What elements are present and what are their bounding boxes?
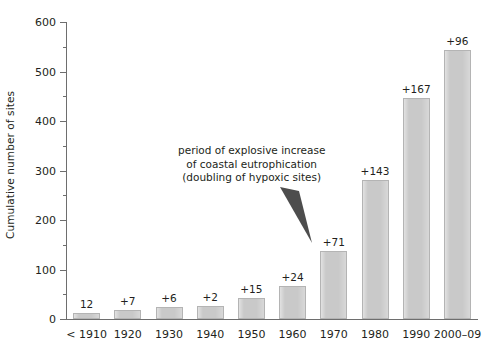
bar-1940 xyxy=(197,306,224,319)
y-axis-tick-major xyxy=(60,22,66,23)
x-axis-tick-label: 1990 xyxy=(402,328,430,341)
y-axis-tick-label: 200 xyxy=(10,214,56,227)
y-axis-tick-major xyxy=(60,121,66,122)
y-axis-tick-label: 500 xyxy=(10,65,56,78)
bar-1990 xyxy=(403,98,430,319)
bar-value-label: +71 xyxy=(323,236,345,248)
bar-1930 xyxy=(156,307,183,319)
bar-1950 xyxy=(238,298,265,319)
x-axis-tick-label: 1920 xyxy=(114,328,142,341)
x-axis-tick-label: 1950 xyxy=(237,328,265,341)
y-axis-tick-minor xyxy=(63,294,66,295)
y-axis-tick-minor xyxy=(63,47,66,48)
x-axis-tick-label: 1940 xyxy=(196,328,224,341)
x-axis-tick-label: 2000–09 xyxy=(434,328,482,341)
y-axis-tick-major xyxy=(60,72,66,73)
bar-1910 xyxy=(73,313,100,319)
y-axis-line xyxy=(66,22,67,320)
x-axis-tick-label: 1930 xyxy=(155,328,183,341)
y-axis-tick-minor xyxy=(63,96,66,97)
y-axis-tick-minor xyxy=(63,245,66,246)
bar-value-label: 12 xyxy=(80,298,93,310)
y-axis-tick-major xyxy=(60,319,66,320)
annotation-line: period of explosive increase xyxy=(178,144,325,156)
y-axis-tick-label: 100 xyxy=(10,263,56,276)
plot-area: 0100200300400500600 12+7+6+2+15+24+71+14… xyxy=(66,22,478,320)
x-axis-tick-label: < 1910 xyxy=(66,328,107,341)
y-axis-tick-minor xyxy=(63,146,66,147)
bar-1970 xyxy=(320,251,347,319)
bar-value-label: +7 xyxy=(120,295,135,307)
annotation-line: (doubling of hypoxic sites) xyxy=(182,171,321,183)
bar-value-label: +2 xyxy=(202,291,217,303)
bar-1960 xyxy=(279,286,306,319)
bar-value-label: +24 xyxy=(282,271,304,283)
bar-value-label: +143 xyxy=(361,165,390,177)
bar-value-label: +96 xyxy=(446,35,468,47)
bar-1980 xyxy=(362,180,389,319)
y-axis-tick-label: 0 xyxy=(10,313,56,326)
chart-figure: Cumulative number of sites 0100200300400… xyxy=(0,0,484,356)
annotation-line: of coastal eutrophication xyxy=(186,158,317,170)
bar-value-label: +6 xyxy=(161,292,176,304)
y-axis-tick-label: 300 xyxy=(10,164,56,177)
y-axis-tick-label: 600 xyxy=(10,16,56,29)
bar-value-label: +167 xyxy=(402,83,431,95)
y-axis-tick-major xyxy=(60,270,66,271)
x-axis-tick-label: 1960 xyxy=(279,328,307,341)
annotation-explosive-increase-text: period of explosive increaseof coastal e… xyxy=(178,144,325,185)
bar-value-label: +15 xyxy=(240,283,262,295)
y-axis-tick-label: 400 xyxy=(10,115,56,128)
x-axis-tick-label: 1980 xyxy=(361,328,389,341)
x-axis-line xyxy=(66,319,478,320)
x-axis-tick-label: 1970 xyxy=(320,328,348,341)
bar-2000-09 xyxy=(444,50,471,319)
annotation-arrow-icon xyxy=(278,185,318,247)
y-axis-tick-minor xyxy=(63,195,66,196)
y-axis-tick-major xyxy=(60,220,66,221)
bar-1920 xyxy=(114,310,141,319)
y-axis-tick-major xyxy=(60,171,66,172)
